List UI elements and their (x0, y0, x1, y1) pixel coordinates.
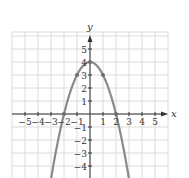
y-tick-label: 3 (81, 71, 87, 81)
x-tick-label: 4 (139, 117, 145, 127)
y-tick-label: −3 (74, 149, 88, 159)
x-tick-label: 3 (126, 117, 132, 127)
x-tick-label: −3 (44, 117, 58, 127)
data-point (88, 60, 92, 64)
y-axis-label: y (86, 21, 93, 32)
x-tick-label: −5 (18, 117, 32, 127)
x-tick-label: 5 (152, 117, 158, 127)
y-tick-label: 1 (81, 97, 87, 107)
tick-labels: −5−4−3−2−112345−4−3−2−112345 (18, 45, 158, 172)
y-tick-label: 2 (81, 84, 87, 94)
y-tick-label: −1 (74, 123, 87, 133)
x-axis-label: x (171, 108, 177, 119)
y-tick-label: −2 (74, 136, 87, 146)
x-tick-label: 1 (100, 117, 106, 127)
y-tick-label: 5 (81, 45, 87, 55)
x-tick-label: 2 (113, 117, 119, 127)
data-point (114, 112, 118, 116)
data-point (101, 73, 105, 77)
x-tick-label: −2 (57, 117, 70, 127)
data-point (62, 112, 66, 116)
axes (12, 35, 168, 178)
data-point (75, 73, 79, 77)
x-axis-arrow-icon (161, 112, 168, 117)
y-tick-label: −4 (74, 162, 88, 172)
x-tick-label: −4 (31, 117, 45, 127)
y-tick-label: 4 (81, 58, 87, 68)
parabola-graph: −5−4−3−2−112345−4−3−2−112345 x y (0, 0, 189, 178)
